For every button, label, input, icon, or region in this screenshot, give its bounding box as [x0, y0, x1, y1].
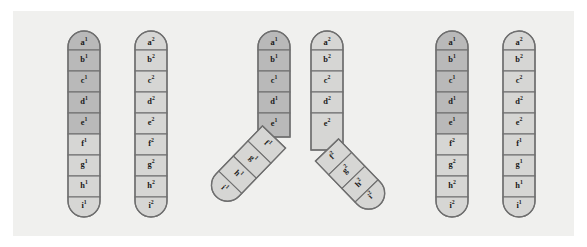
- recombinant-1: a1 b1 c1 d1 e1 f2 g2 h2 i2: [436, 31, 468, 217]
- panel-crossing-over: a1 b1 c1 d1 e1 a2 b2 c2 d2 e2: [205, 31, 391, 216]
- chromatid-2: a2 b2 c2 d2 e2 f2 g2 h2 i2: [135, 31, 167, 217]
- crossed-arm-chromatid-2: f2 g2 h2 i2: [315, 139, 391, 216]
- crossing-over-diagram: a1 b1 c1 d1 e1 f1 g1 h1 i1: [0, 0, 587, 247]
- crossed-arm-chromatid-1: f1 g1 h1 i1: [205, 126, 286, 208]
- chromatid-2-crossed-upper: a2 b2 c2 d2 e2: [311, 31, 343, 150]
- diagram-stage: a1 b1 c1 d1 e1 f1 g1 h1 i1: [0, 0, 587, 247]
- recombinant-2: a2 b2 c2 d2 e2 f1 g1 h1 i1: [503, 31, 535, 217]
- panel-before-crossover: a1 b1 c1 d1 e1 f1 g1 h1 i1: [68, 31, 167, 217]
- chromatid-1: a1 b1 c1 d1 e1 f1 g1 h1 i1: [68, 31, 100, 217]
- chromatid-1-crossed-upper: a1 b1 c1 d1 e1: [258, 31, 290, 137]
- panel-after-crossover: a1 b1 c1 d1 e1 f2 g2 h2 i2: [436, 31, 535, 217]
